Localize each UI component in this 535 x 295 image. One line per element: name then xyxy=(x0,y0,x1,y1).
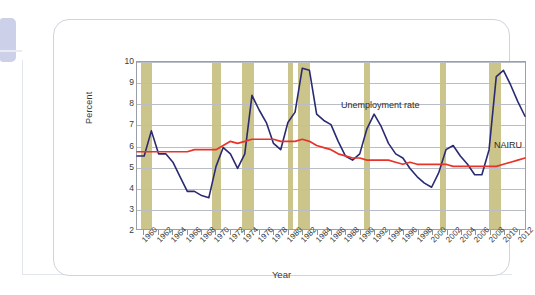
y-axis-tick-label: 10 xyxy=(112,57,134,66)
x-axis-title: Year xyxy=(54,269,509,280)
y-axis-tick-label: 7 xyxy=(112,120,134,129)
y-axis-title: Percent xyxy=(84,92,94,124)
page-tab-accent-line xyxy=(0,50,22,52)
y-axis-tick-label: 5 xyxy=(112,163,134,172)
y-axis-tick-labels: 2345678910 xyxy=(112,54,134,236)
nairu-series-label: NAIRU xyxy=(494,140,522,150)
y-axis-tick-label: 9 xyxy=(112,78,134,87)
x-axis-tick-labels: 1960196219641966196819701972197419761978… xyxy=(136,234,526,274)
unemployment-line xyxy=(137,68,525,197)
series-lines xyxy=(137,62,525,229)
y-axis-tick-label: 6 xyxy=(112,142,134,151)
unemployment-series-label: Unemployment rate xyxy=(341,100,420,110)
plot-area xyxy=(136,61,526,230)
y-axis-tick-label: 8 xyxy=(112,99,134,108)
page-tab-accent xyxy=(0,18,16,62)
y-axis-tick-label: 3 xyxy=(112,205,134,214)
y-axis-tick-label: 2 xyxy=(112,226,134,235)
y-axis-tick-label: 4 xyxy=(112,184,134,193)
page-rule-left xyxy=(22,60,23,275)
figure-card: Percent 2345678910 196019621964196619681… xyxy=(53,19,510,276)
